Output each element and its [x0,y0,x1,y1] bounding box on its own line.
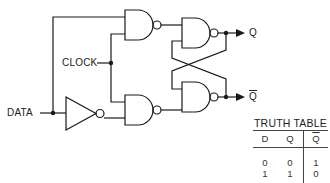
nand-4-gate [182,82,210,112]
truth-table-grid: D Q Q 0 0 1 1 1 0 [253,131,328,181]
row-0-d: 0 [255,157,275,168]
row-1-d: 1 [255,168,275,179]
clock-to-nand1-wire [111,34,125,63]
nand-1-gate [125,10,153,40]
data-label: DATA [7,107,33,118]
nand-3-bubble [210,29,218,37]
nand-3-gate [182,18,210,48]
q-arrow-icon [236,29,245,37]
qbar-arrow-icon [236,93,245,101]
clock-to-nand2-wire [111,63,125,102]
truth-table-title: TRUTH TABLE [253,117,328,131]
inverter-gate [66,97,96,130]
nand-2-bubble [153,106,161,114]
column-divider [303,131,304,183]
q-label: Q [249,27,257,38]
qbar-junction-dot [224,95,228,99]
row-1-q: 1 [280,168,300,179]
nand-2-gate [125,95,153,125]
header-q: Q [280,133,300,144]
q-bar-label: Q [249,91,257,102]
nand-4-bubble [210,93,218,101]
header-d: D [255,133,275,144]
clock-label: CLOCK [62,57,97,68]
row-0-q: 0 [280,157,300,168]
nand-1-bubble [153,21,161,29]
header-divider [253,147,328,148]
header-q-bar: Q [306,133,326,144]
data-junction-dot [51,111,55,115]
row-1-qbar: 0 [306,168,326,179]
truth-table: TRUTH TABLE D Q Q 0 0 1 1 1 0 [253,117,328,181]
row-0-qbar: 1 [306,157,326,168]
clock-junction-dot [109,61,113,65]
q-junction-dot [224,31,228,35]
